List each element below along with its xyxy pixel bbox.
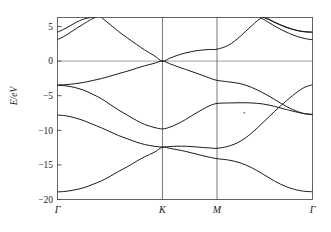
x-tick-label: M: [212, 204, 222, 215]
y-tick-label: −15: [38, 160, 53, 170]
stray-speck: [243, 112, 245, 114]
plot-canvas: 50−5−10−15−20ΓKMΓ: [0, 0, 331, 232]
x-tick-label: Γ: [54, 204, 61, 215]
x-axis-ticks: ΓKMΓ: [54, 204, 316, 215]
x-tick-label: K: [158, 204, 167, 215]
y-tick-label: 5: [48, 22, 53, 32]
plot-frame: [58, 18, 313, 200]
y-axis-label: E/eV: [9, 87, 19, 105]
y-tick-label: 0: [48, 56, 53, 66]
x-tick-label: Γ: [309, 204, 316, 215]
y-tick-label: −20: [38, 195, 53, 205]
band-structure-figure: E/eV 50−5−10−15−20ΓKMΓ: [0, 0, 331, 232]
y-tick-label: −5: [43, 91, 53, 101]
y-tick-label: −10: [38, 126, 53, 136]
